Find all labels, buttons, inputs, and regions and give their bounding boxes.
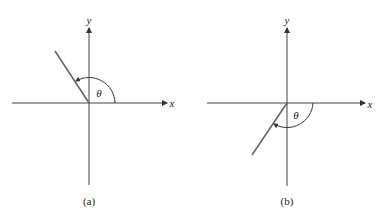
x-axis-label-a: x xyxy=(170,97,175,109)
theta-label-a: θ xyxy=(96,87,101,99)
terminal-ray xyxy=(252,103,287,155)
x-axis-label-b: x xyxy=(368,98,373,110)
theta-label-b: θ xyxy=(293,109,298,121)
panel-b xyxy=(207,28,365,186)
y-axis-label-b: y xyxy=(285,14,290,26)
caption-a: (a) xyxy=(83,195,95,207)
panel-a xyxy=(12,28,167,185)
y-axis-label-a: y xyxy=(87,14,92,26)
caption-b: (b) xyxy=(281,195,294,207)
angle-diagram xyxy=(0,0,380,216)
terminal-ray xyxy=(55,51,89,103)
